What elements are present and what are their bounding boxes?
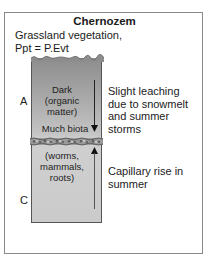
leaching-description: Slight leaching due to snowmelt and summ… bbox=[108, 85, 188, 135]
capillary-arrow-icon bbox=[91, 147, 98, 209]
capillary-rise-description: Capillary rise in summer bbox=[108, 165, 183, 190]
leaching-arrow-icon bbox=[91, 80, 98, 132]
